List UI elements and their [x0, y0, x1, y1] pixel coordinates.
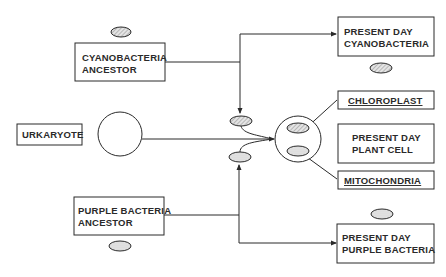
present-cyanobacteria-label-line2: CYANOBACTERIA [344, 38, 429, 49]
mitochondria-box: MITOCHONDRIA [338, 171, 434, 189]
present-day-purple-bacteria-box: PRESENT DAY PURPLE BACTERIA [337, 224, 435, 263]
present-purple-bacteria-label-line2: PURPLE BACTERIA [342, 244, 435, 255]
cyanobacteria-ancestor-label-line1: CYANOBACTERIA [82, 52, 167, 63]
present-plant-cell-label-line2: PLANT CELL [352, 144, 413, 155]
present-cyanobacteria-organism-icon [370, 63, 392, 73]
mitochondria-label: MITOCHONDRIA [344, 175, 421, 186]
present-purple-bacteria-organism-icon [371, 209, 393, 219]
purple-bacteria-ancestor-label-line2: ANCESTOR [78, 217, 133, 228]
present-day-cyanobacteria-box: PRESENT DAY CYANOBACTERIA [338, 17, 434, 56]
present-cyanobacteria-label-line1: PRESENT DAY [344, 26, 413, 37]
mitochondrion-icon [287, 146, 309, 156]
present-plant-cell-label-line1: PRESENT DAY [352, 132, 421, 143]
present-day-plant-cell-box: PRESENT DAY PLANT CELL [338, 124, 434, 163]
chloroplast-box: CHLOROPLAST [338, 91, 434, 109]
chloroplast-icon [287, 123, 309, 133]
endosymbiosis-diagram: CYANOBACTERIA ANCESTOR URKARYOTE PURPLE … [0, 0, 446, 277]
mitochondria-precursor-icon [229, 152, 251, 162]
cyanobacteria-ancestor-label-line2: ANCESTOR [82, 64, 137, 75]
chloroplast-precursor-icon [230, 116, 252, 126]
urkaryote-box: URKARYOTE [17, 124, 84, 145]
chloroplast-label: CHLOROPLAST [348, 95, 423, 106]
cyanobacteria-ancestor-organism-icon [111, 27, 131, 37]
urkaryote-cell-icon [98, 112, 142, 156]
purple-bacteria-ancestor-label-line1: PURPLE BACTERIA [78, 205, 171, 216]
purple-bacteria-ancestor-organism-icon [109, 241, 131, 251]
cyanobacteria-ancestor-box: CYANOBACTERIA ANCESTOR [75, 43, 167, 81]
urkaryote-label: URKARYOTE [22, 129, 84, 140]
present-purple-bacteria-label-line1: PRESENT DAY [342, 232, 411, 243]
purple-bacteria-ancestor-box: PURPLE BACTERIA ANCESTOR [74, 197, 171, 235]
